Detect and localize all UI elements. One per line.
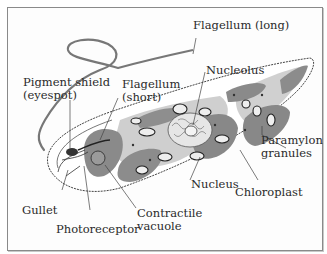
label-contractile: Contractile — [137, 207, 202, 220]
eyespot — [66, 148, 78, 156]
nucleolus — [185, 126, 197, 136]
label-vacuole: vacuole — [137, 220, 182, 233]
label-eyespot: (eyespot) — [23, 89, 77, 102]
label-nucleus: Nucleus — [191, 178, 239, 191]
label-photoreceptor: Photoreceptor — [56, 223, 140, 236]
label-pigment-shield: Pigment shield — [23, 76, 110, 89]
label-chloroplast: Chloroplast — [235, 186, 303, 199]
label-paramylon: Paramylon — [261, 134, 323, 147]
label-flagellum-long: Flagellum (long) — [193, 19, 289, 32]
label-flagellum-short: Flagellum — [122, 78, 180, 91]
label-gullet: Gullet — [22, 204, 57, 217]
contractile-vacuole — [91, 151, 105, 165]
label-paramylon-sub: granules — [261, 147, 312, 160]
label-flagellum-short-sub: (short) — [122, 91, 161, 104]
label-nucleolus: Nucleolus — [206, 64, 264, 77]
